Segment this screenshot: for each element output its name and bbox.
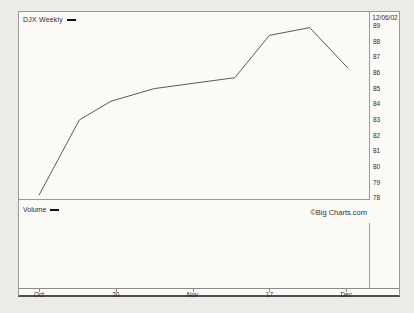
volume-line-icon bbox=[50, 209, 59, 211]
x-axis-line bbox=[19, 288, 399, 289]
y-axis-tick-label: 79 bbox=[373, 179, 380, 187]
y-axis-tick-label: 81 bbox=[373, 147, 380, 155]
x-axis-tick-label: Oct bbox=[27, 291, 51, 298]
y-axis-tick-label: 85 bbox=[373, 85, 380, 93]
y-axis-tick-label: 87 bbox=[373, 53, 380, 61]
x-axis-tick-label: Dec bbox=[334, 291, 358, 298]
price-pane bbox=[19, 12, 370, 200]
legend-symbol-label: DJX Weekly bbox=[23, 16, 63, 23]
y-axis-tick-label: 80 bbox=[373, 163, 380, 171]
y-axis-tick-label: 86 bbox=[373, 69, 380, 77]
scanned-chart-page: { "header": { "legend_label": "DJX Weekl… bbox=[0, 0, 414, 313]
x-axis-tick-label: 20 bbox=[104, 291, 128, 298]
y-axis-tick-label: 78 bbox=[373, 194, 380, 202]
bigcharts-copyright: ©Big Charts.com bbox=[310, 208, 367, 217]
legend-line-icon bbox=[67, 19, 76, 21]
x-axis-tick-label: Nov bbox=[181, 291, 205, 298]
volume-legend: Volume bbox=[23, 206, 59, 213]
y-axis-tick-label: 89 bbox=[373, 22, 380, 30]
y-axis-tick-label: 82 bbox=[373, 132, 380, 140]
y-axis-tick-label: 84 bbox=[373, 100, 380, 108]
x-axis-tick-label: 17 bbox=[257, 291, 281, 298]
volume-pane-right-border bbox=[369, 223, 370, 288]
price-series-line bbox=[39, 28, 348, 196]
y-axis-tick-label: 83 bbox=[373, 116, 380, 124]
last-date-label: 12/06/02 bbox=[369, 14, 401, 21]
volume-label: Volume bbox=[23, 206, 46, 213]
y-axis-tick-label: 88 bbox=[373, 38, 380, 46]
chart-figure: DJX Weekly 12/06/02 78798081828384858687… bbox=[18, 11, 400, 297]
price-line-chart bbox=[19, 12, 369, 199]
chart-legend: DJX Weekly bbox=[23, 16, 76, 23]
